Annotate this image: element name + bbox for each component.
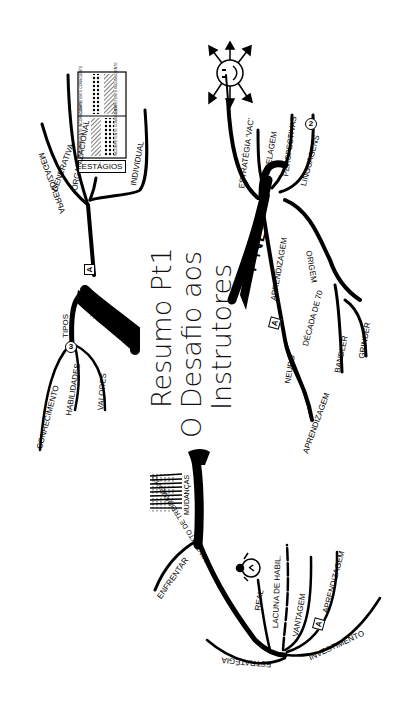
branch-vac-to-icon xyxy=(226,75,228,100)
estagios-cell-3: COMPETENTE CONSCIENTE xyxy=(80,76,84,114)
compass-face-icon xyxy=(209,42,252,107)
estagios-label: ESTÁGIOS xyxy=(78,160,126,173)
stopwatch-icon xyxy=(237,553,261,581)
label-mudancas: MUDANÇAS xyxy=(183,475,190,515)
badge-3: 3 xyxy=(65,341,77,353)
branch-origem xyxy=(285,200,360,300)
branch-estagios xyxy=(90,178,96,200)
mudancas-wedge-top xyxy=(188,449,210,465)
badge-2: 2 xyxy=(305,118,317,130)
branch-lacuna xyxy=(283,545,288,650)
title-line-3: Instrutores xyxy=(208,264,235,410)
estagios-cell-2: INCOMPETENTE CONSCIENTE xyxy=(115,118,119,156)
title-line-1: Resumo Pt1 xyxy=(148,247,175,408)
branch-mudancas xyxy=(195,455,199,545)
badge-a-top: A xyxy=(84,264,95,275)
label-tipos: TIPOS xyxy=(62,314,70,338)
title-line-2: O Desafio aos xyxy=(178,251,205,438)
estagios-cell-4: COMPETENTE INCONSCIENTE xyxy=(115,76,119,114)
